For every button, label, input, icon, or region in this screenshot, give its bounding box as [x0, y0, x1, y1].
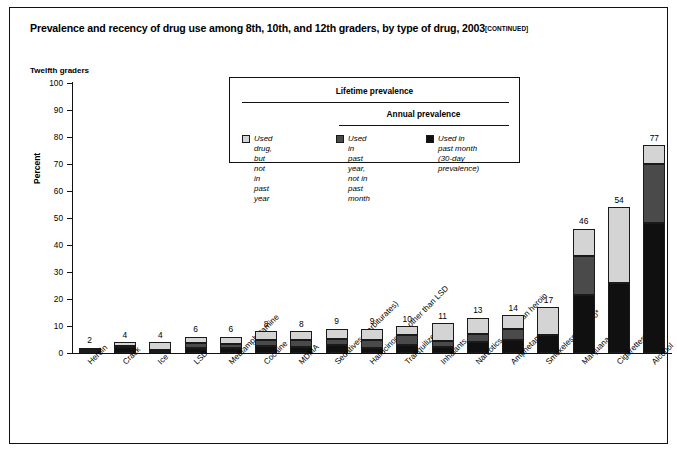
y-axis-title: Percent — [32, 153, 42, 184]
bar-alcohol[interactable] — [643, 145, 665, 353]
bar-segment — [290, 331, 312, 340]
bar-segment — [502, 315, 524, 329]
bar-segment — [537, 307, 559, 335]
legend-swatch — [336, 135, 344, 143]
bar-value-label: 9 — [352, 316, 392, 326]
legend-rule-annual — [339, 125, 509, 126]
y-tick-label: 0 — [23, 353, 63, 354]
y-tick — [67, 164, 72, 165]
y-tick-label: 90 — [23, 110, 63, 111]
y-tick-label: 100 — [23, 83, 63, 84]
bar-value-label: 11 — [423, 311, 463, 321]
y-tick-label: 10 — [23, 326, 63, 327]
bar-value-label: 46 — [564, 216, 604, 226]
bar-segment — [326, 339, 348, 345]
bar-segment — [643, 223, 665, 353]
chart-legend: Lifetime prevalence Annual prevalence Us… — [229, 77, 520, 163]
y-tick — [67, 272, 72, 273]
bar-value-label: 10 — [387, 314, 427, 324]
bar-value-label: 17 — [528, 295, 568, 305]
y-tick — [67, 218, 72, 219]
bar-value-label: 13 — [458, 305, 498, 315]
bar-value-label: 6 — [176, 324, 216, 334]
bar-segment — [467, 318, 489, 334]
y-tick-label: 40 — [23, 245, 63, 246]
bar-segment — [361, 329, 383, 341]
legend-label: Used in past year, not in past month — [348, 134, 370, 204]
bar-segment — [643, 164, 665, 223]
chart-figure: Prevalence and recency of drug use among… — [0, 0, 677, 451]
bar-cigarettes[interactable] — [608, 207, 630, 353]
bar-value-label: 4 — [105, 330, 145, 340]
bar-value-label: 6 — [211, 324, 251, 334]
legend-swatch — [242, 135, 250, 143]
legend-rule-lifetime — [242, 102, 509, 103]
legend-label: Used in past month (30-day prevalence) — [438, 134, 479, 174]
legend-header-annual: Annual prevalence — [326, 109, 521, 119]
bar-segment — [185, 343, 207, 348]
bar-segment — [608, 207, 630, 283]
y-tick — [67, 326, 72, 327]
bar-value-label: 8 — [246, 319, 286, 329]
bar-segment — [185, 337, 207, 343]
bar-segment — [432, 323, 454, 341]
bar-segment — [608, 283, 630, 353]
bar-marijuana[interactable] — [573, 229, 595, 353]
bar-segment — [114, 342, 136, 346]
bar-segment — [220, 337, 242, 344]
y-tick-label: 30 — [23, 272, 63, 273]
y-tick — [67, 191, 72, 192]
y-tick-label: 20 — [23, 299, 63, 300]
bar-segment — [255, 340, 277, 347]
y-tick — [67, 353, 72, 354]
bar-value-label: 8 — [281, 319, 321, 329]
bar-segment — [573, 229, 595, 256]
bar-segment — [502, 329, 524, 340]
bar-segment — [643, 145, 665, 164]
bar-segment — [432, 341, 454, 346]
y-tick — [67, 299, 72, 300]
y-tick — [67, 83, 72, 84]
bar-segment — [467, 334, 489, 342]
title-continued-badge: [CONTINUED] — [485, 25, 528, 32]
bar-segment — [149, 342, 171, 350]
x-tick-label: Ice — [156, 352, 170, 366]
figure-frame: Prevalence and recency of drug use among… — [9, 7, 668, 444]
bar-segment — [255, 331, 277, 339]
bar-value-label: 4 — [140, 330, 180, 340]
bar-value-label: 54 — [599, 195, 639, 205]
bar-segment — [396, 335, 418, 345]
bar-segment — [573, 256, 595, 295]
bar-value-label: 9 — [317, 316, 357, 326]
legend-header-lifetime: Lifetime prevalence — [230, 86, 519, 96]
bar-segment — [396, 326, 418, 335]
y-tick — [67, 245, 72, 246]
bar-segment — [573, 295, 595, 353]
y-tick-label: 50 — [23, 218, 63, 219]
x-tick-label: Heroin — [86, 343, 109, 366]
chart-subtitle: Twelfth graders — [30, 66, 89, 75]
bar-segment — [326, 329, 348, 339]
bar-value-label: 77 — [634, 133, 674, 143]
legend-swatch — [426, 135, 434, 143]
y-tick-label: 70 — [23, 164, 63, 165]
y-tick — [67, 110, 72, 111]
page-title-text: Prevalence and recency of drug use among… — [30, 22, 485, 34]
y-tick-label: 60 — [23, 191, 63, 192]
y-tick-label: 80 — [23, 137, 63, 138]
y-tick — [67, 137, 72, 138]
bar-ice[interactable] — [149, 342, 171, 353]
page-title: Prevalence and recency of drug use among… — [30, 22, 528, 34]
bar-value-label: 14 — [493, 303, 533, 313]
legend-label: Used drug, but not in past year — [254, 134, 272, 204]
